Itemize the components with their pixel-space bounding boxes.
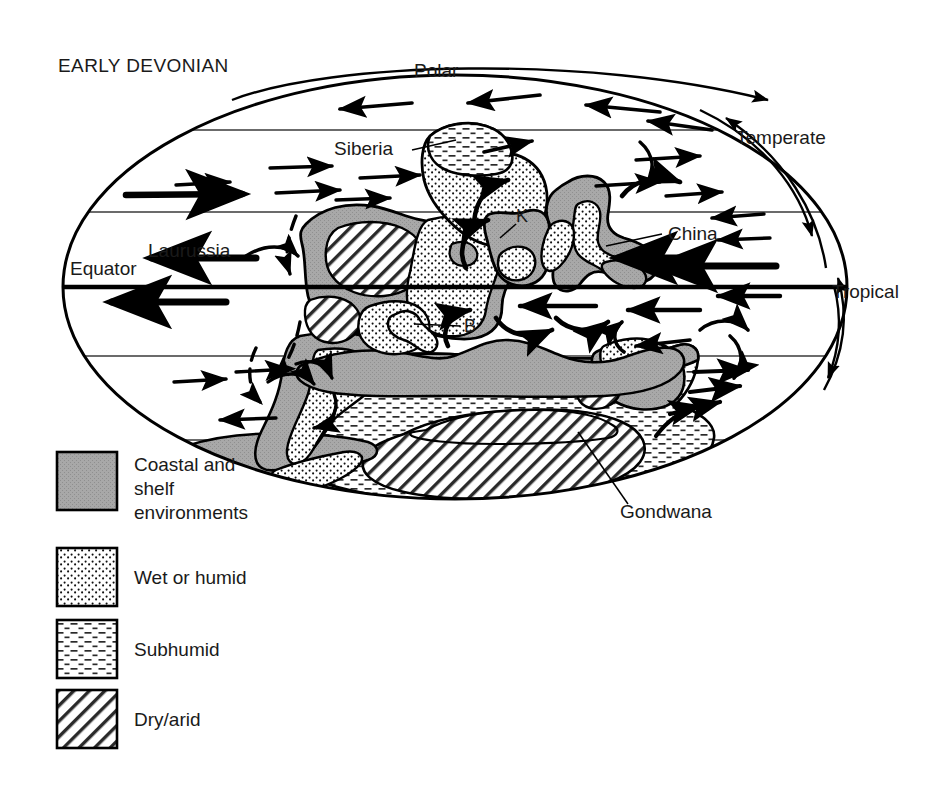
legend-label-coastal-line3: environments [134, 502, 248, 523]
legend-label-coastal-line2: shelf [134, 478, 175, 499]
paleogeographic-figure: EARLY DEVONIAN [0, 0, 939, 796]
label-gondwana: Gondwana [620, 501, 712, 522]
label-polar: Polar [414, 60, 459, 81]
legend-label-dry: Dry/arid [134, 709, 201, 730]
legend-swatch-subhumid [57, 620, 117, 678]
legend-swatch-dry [57, 690, 117, 748]
legend-label-coastal-line1: Coastal and [134, 454, 235, 475]
label-k: K [516, 206, 528, 226]
legend-swatch-coastal [57, 452, 117, 510]
figure-title: EARLY DEVONIAN [58, 55, 229, 76]
label-tropical: Tropical [832, 281, 899, 302]
label-china: China [668, 223, 718, 244]
laurussia-dry-arid-south [305, 297, 360, 343]
k-wet-humid [498, 247, 535, 281]
legend-label-subhumid: Subhumid [134, 639, 220, 660]
label-siberia: Siberia [334, 138, 394, 159]
legend-swatch-wet [57, 548, 117, 606]
label-equator: Equator [70, 258, 137, 279]
label-temperate: Temperate [736, 127, 826, 148]
legend-label-wet: Wet or humid [134, 567, 247, 588]
label-laurussia: Laurussia [148, 240, 231, 261]
label-b: B [464, 316, 476, 336]
